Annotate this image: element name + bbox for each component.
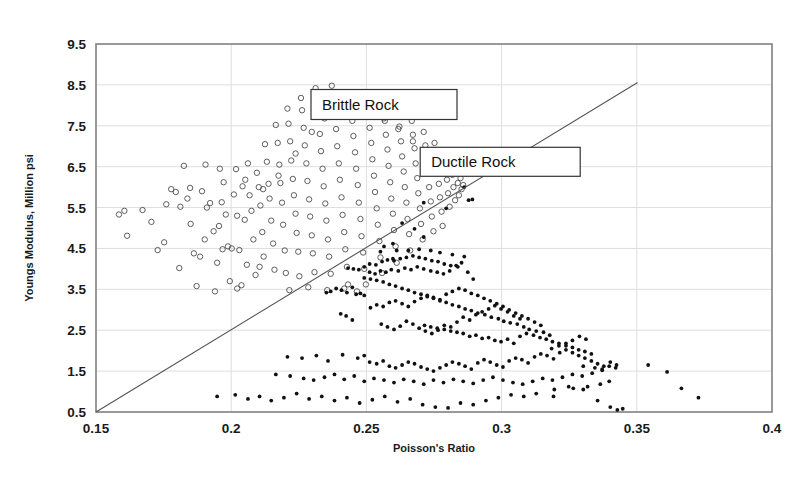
data-point [552, 395, 556, 399]
data-point [413, 161, 418, 166]
data-point [583, 356, 587, 360]
data-point [355, 182, 360, 187]
data-point [586, 385, 590, 389]
data-point [450, 253, 454, 257]
data-point [188, 221, 193, 226]
data-point [607, 379, 611, 383]
data-point [474, 333, 478, 337]
data-point [392, 381, 396, 385]
data-point [272, 267, 277, 272]
data-point [584, 337, 588, 341]
data-point [557, 341, 561, 345]
data-point [312, 378, 316, 382]
data-point [442, 323, 446, 327]
data-point [329, 83, 334, 88]
data-point [621, 407, 625, 411]
data-point [444, 206, 448, 210]
data-point [425, 295, 429, 299]
data-point [323, 375, 327, 379]
data-point [564, 344, 568, 348]
data-point [461, 332, 465, 336]
data-point [448, 269, 452, 273]
data-point [461, 379, 465, 383]
data-point [429, 214, 434, 219]
data-point [340, 288, 344, 292]
data-point [571, 346, 575, 350]
data-point [399, 154, 404, 159]
data-point [697, 396, 701, 400]
data-point [488, 299, 492, 303]
y-tick-label: 5.5 [67, 201, 86, 216]
data-point [446, 406, 450, 410]
data-point [387, 283, 391, 287]
data-point [337, 177, 342, 182]
data-point [328, 271, 333, 276]
data-point [438, 251, 442, 255]
data-point [342, 229, 347, 234]
data-point [359, 233, 364, 238]
data-point [370, 398, 374, 402]
data-point [371, 173, 376, 178]
data-point [374, 206, 379, 211]
data-point [291, 193, 296, 198]
data-point [191, 251, 196, 256]
data-point [463, 364, 467, 368]
data-point [300, 356, 304, 360]
data-point [357, 268, 361, 272]
data-point [489, 315, 493, 319]
data-point [577, 348, 581, 352]
data-point [466, 270, 470, 274]
data-point [450, 360, 454, 364]
data-point [282, 396, 286, 400]
data-point [124, 233, 129, 238]
data-point [246, 397, 250, 401]
data-point [266, 181, 271, 186]
data-point [396, 400, 400, 404]
data-point [455, 320, 459, 324]
data-point [520, 314, 524, 318]
data-point [544, 337, 548, 341]
data-point [476, 294, 480, 298]
data-point [487, 336, 491, 340]
data-point [362, 276, 366, 280]
data-point [258, 395, 262, 399]
data-point [476, 361, 480, 365]
y-tick-label: 3.5 [67, 282, 86, 297]
data-point [177, 265, 182, 270]
data-point [581, 364, 585, 368]
data-point [317, 131, 322, 136]
y-tick-label: 1.5 [67, 364, 86, 379]
data-point [411, 322, 415, 326]
data-point [581, 388, 585, 392]
data-point [493, 339, 497, 343]
data-point [392, 328, 396, 332]
data-point [249, 208, 254, 213]
data-point [269, 399, 273, 403]
data-point [533, 355, 537, 359]
data-point [398, 139, 403, 144]
data-point [385, 147, 390, 152]
data-point [429, 249, 433, 253]
data-point [507, 308, 511, 312]
data-point [432, 378, 436, 382]
x-tick-label: 0.4 [763, 421, 782, 436]
data-point [471, 277, 475, 281]
data-point [398, 257, 402, 261]
data-point [511, 381, 515, 385]
data-point [444, 363, 448, 367]
data-point [413, 291, 417, 295]
data-point [412, 379, 416, 383]
data-point [608, 360, 612, 364]
data-point [294, 230, 299, 235]
data-point [531, 379, 535, 383]
data-point [469, 309, 473, 313]
data-point [394, 284, 398, 288]
data-point [471, 381, 475, 385]
data-point [161, 240, 166, 245]
data-point [267, 196, 272, 201]
data-point [243, 177, 248, 182]
data-point [430, 259, 434, 263]
data-point [600, 367, 604, 371]
y-tick-label: 7.5 [67, 119, 86, 134]
data-point [416, 191, 421, 196]
